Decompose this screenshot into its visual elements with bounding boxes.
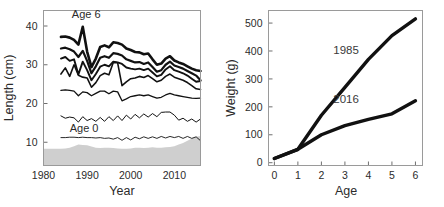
y-tick-label: 400 [245, 45, 263, 57]
series-line-1985 [274, 19, 415, 159]
x-tick-label: 4 [366, 169, 372, 181]
left-plot-frame [44, 11, 201, 166]
left-chart-svg: 1980199020002010 10203040 Year Length (c… [0, 0, 222, 207]
y-tick-label: 300 [245, 73, 263, 85]
y-tick-label: 10 [26, 136, 38, 148]
two-panel-figure: 1980199020002010 10203040 Year Length (c… [0, 0, 444, 207]
left-y-tick-labels: 10203040 [26, 20, 38, 148]
series-line-2016 [274, 101, 415, 159]
series-label-1985: 1985 [333, 44, 359, 56]
x-tick-label: 0 [271, 169, 277, 181]
y-tick-label: 40 [26, 20, 38, 32]
x-tick-label: 5 [389, 169, 395, 181]
x-tick-label: 1980 [32, 169, 56, 181]
series-line-age-0 [61, 136, 201, 140]
y-tick-label: 30 [26, 58, 38, 70]
panel-weight-at-age: 0123456 0100200300400500 Age Weight (g) … [222, 0, 444, 207]
x-tick-label: 3 [342, 169, 348, 181]
series-label-2016: 2016 [333, 93, 359, 105]
x-tick-label: 2010 [163, 169, 187, 181]
annotation-age-0: Age 0 [70, 122, 99, 134]
right-series-group [274, 19, 415, 159]
y-tick-label: 0 [257, 156, 263, 168]
y-tick-label: 500 [245, 17, 263, 29]
x-tick-label: 2 [318, 169, 324, 181]
x-tick-label: 6 [413, 169, 419, 181]
series-line-age-1 [61, 112, 201, 122]
series-line-age-2 [61, 90, 201, 101]
left-y-axis-title: Length (cm) [2, 55, 16, 122]
panel-length-at-age: 1980199020002010 10203040 Year Length (c… [0, 0, 222, 207]
y-tick-label: 20 [26, 97, 38, 109]
annotation-age-6: Age 6 [72, 8, 101, 20]
x-tick-label: 1 [295, 169, 301, 181]
right-x-tick-labels: 0123456 [271, 169, 418, 181]
y-tick-label: 200 [245, 101, 263, 113]
right-x-axis-title: Age [335, 184, 357, 198]
right-y-axis-title: Weight (g) [224, 59, 238, 116]
right-chart-svg: 0123456 0100200300400500 Age Weight (g) … [222, 0, 444, 207]
x-tick-label: 2000 [119, 169, 143, 181]
left-x-tick-labels: 1980199020002010 [32, 169, 186, 181]
y-tick-label: 100 [245, 128, 263, 140]
x-tick-label: 1990 [75, 169, 99, 181]
left-x-axis-title: Year [109, 184, 134, 198]
right-y-tick-labels: 0100200300400500 [245, 17, 263, 169]
